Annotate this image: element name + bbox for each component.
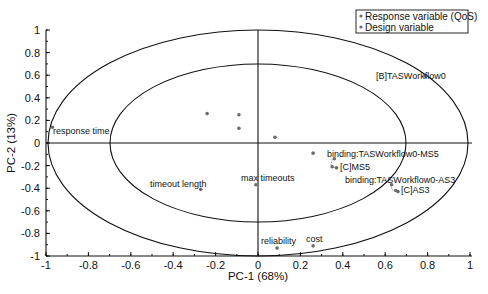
label-binding-ms5: binding:TASWorkflow0-MS5	[327, 149, 439, 159]
data-point	[311, 151, 315, 155]
label-c-ms5: [C]MS5	[340, 162, 370, 172]
x-tick-label: -0.4	[164, 259, 183, 271]
data-point	[396, 190, 400, 194]
data-point	[237, 127, 241, 131]
legend-marker-design	[359, 25, 362, 28]
data-points	[51, 75, 428, 250]
y-tick-label: -0.6	[21, 205, 40, 217]
data-point	[335, 166, 339, 170]
x-axis-title: PC-1 (68%)	[228, 270, 288, 282]
data-point	[254, 183, 258, 187]
x-tick-label: -0.6	[121, 259, 140, 271]
y-tick-label: 0.6	[25, 69, 40, 81]
data-point	[311, 244, 315, 248]
legend-label-design: Design variable	[365, 22, 434, 33]
x-tick-label: -0.2	[206, 259, 225, 271]
label-reliability: reliability	[261, 236, 297, 246]
y-tick-label: -0.4	[21, 182, 40, 194]
label-b-workflow: [B]TASWorkflow0	[376, 71, 446, 81]
label-max-timeouts: max timeouts	[241, 173, 295, 183]
legend: Response variable (QoS) Design variable	[356, 10, 477, 33]
x-tick-label: 0.2	[293, 259, 308, 271]
y-tick-label: 0.2	[25, 114, 40, 126]
y-tick-label: -0.8	[21, 227, 40, 239]
legend-marker-response	[359, 14, 362, 17]
x-tick-label: -0.8	[79, 259, 98, 271]
data-point	[275, 246, 279, 250]
pca-loadings-chart: -1-0.8-0.6-0.4-0.200.20.40.60.8110.80.60…	[0, 0, 488, 294]
label-cost: cost	[306, 234, 323, 244]
label-response-time: response time	[53, 126, 110, 136]
y-tick-label: -0.2	[21, 160, 40, 172]
y-tick-label: -1	[30, 250, 40, 262]
y-tick-label: 0.4	[25, 92, 40, 104]
y-tick-label: 1	[34, 24, 40, 36]
x-tick-label: 0.6	[378, 259, 393, 271]
y-tick-label: 0	[34, 137, 40, 149]
x-tick-label: 0.4	[335, 259, 350, 271]
data-point	[237, 113, 241, 117]
data-point	[205, 112, 209, 116]
y-tick-label: 0.8	[25, 47, 40, 59]
x-tick-label: -1	[41, 259, 51, 271]
legend-label-response: Response variable (QoS)	[365, 11, 477, 22]
label-c-as3: [C]AS3	[401, 185, 430, 195]
y-axis-title: PC-2 (13%)	[5, 113, 17, 173]
x-tick-label: 0.8	[420, 259, 435, 271]
label-binding-as3: binding:TASWorkflow0-AS3	[345, 175, 455, 185]
label-timeout-length: timeout length	[150, 179, 207, 189]
data-point	[273, 136, 277, 140]
x-tick-label: 1	[467, 259, 473, 271]
